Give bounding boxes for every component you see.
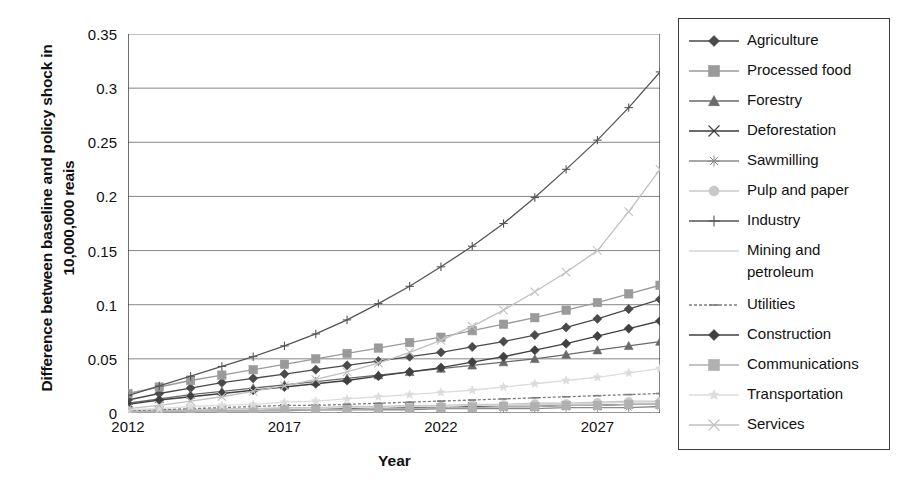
legend-swatch-square-icon <box>687 354 741 376</box>
data-point-marker <box>311 365 320 374</box>
legend-swatch-square-icon <box>687 60 741 82</box>
data-point-marker <box>531 314 539 322</box>
data-point-marker <box>656 337 660 345</box>
data-point-marker <box>709 390 719 400</box>
plot-svg <box>128 34 660 413</box>
data-point-marker <box>655 295 660 304</box>
data-point-marker <box>249 365 257 373</box>
legend-item-label: Communications <box>747 353 859 375</box>
data-point-marker <box>562 376 571 384</box>
x-tick-label: 2022 <box>424 418 457 435</box>
data-point-marker <box>655 316 660 325</box>
legend-swatch-diamond-icon <box>687 324 741 346</box>
data-point-marker <box>374 344 382 352</box>
legend-item-label: Services <box>747 413 805 435</box>
legend-item-label: Transportation <box>747 383 843 405</box>
legend-item[interactable]: Utilities <box>679 293 889 323</box>
data-point-marker <box>531 402 539 410</box>
data-point-marker <box>405 282 413 290</box>
data-point-marker <box>499 306 507 314</box>
data-point-marker <box>374 299 382 307</box>
data-point-marker <box>405 390 414 398</box>
legend-item[interactable]: Sawmilling <box>679 149 889 179</box>
data-point-marker <box>656 281 660 289</box>
data-point-marker <box>218 362 226 370</box>
series-agriculture <box>128 295 660 405</box>
data-point-marker <box>656 400 660 408</box>
legend-item[interactable]: Mining and petroleum <box>679 239 889 293</box>
legend-swatch-none-icon <box>687 240 741 262</box>
legend-swatch-diamond-icon <box>687 30 741 52</box>
data-point-marker <box>625 290 633 298</box>
data-point-marker <box>624 368 633 376</box>
x-tick-label: 2027 <box>581 418 614 435</box>
data-point-marker <box>468 386 477 394</box>
data-point-marker <box>530 346 539 355</box>
chart-figure: Difference between baseline and policy s… <box>0 0 903 487</box>
data-point-marker <box>624 304 633 313</box>
data-point-marker <box>499 402 507 410</box>
series-line <box>128 299 660 400</box>
y-tick-label: 0 <box>57 405 117 422</box>
x-tick-label: 2012 <box>111 418 144 435</box>
x-tick-label: 2017 <box>268 418 301 435</box>
data-point-marker <box>155 395 164 404</box>
data-point-marker <box>218 371 226 379</box>
legend-item[interactable]: Communications <box>679 353 889 383</box>
data-point-marker <box>437 403 445 411</box>
data-point-marker <box>593 314 602 323</box>
data-point-marker <box>499 337 508 346</box>
legend-item[interactable]: Pulp and paper <box>679 179 889 209</box>
data-point-marker <box>437 388 446 396</box>
data-point-marker <box>593 373 602 381</box>
data-point-marker <box>128 389 132 397</box>
y-tick-label: 0.2 <box>57 188 117 205</box>
series-line <box>128 342 660 404</box>
plot-area <box>128 34 660 413</box>
data-point-marker <box>343 406 351 413</box>
data-point-marker <box>499 382 508 390</box>
legend-item-label: Agriculture <box>747 29 819 51</box>
data-point-marker <box>562 306 570 314</box>
legend-item-label: Processed food <box>747 59 851 81</box>
legend-item[interactable]: Forestry <box>679 89 889 119</box>
legend-swatch-triangle-icon <box>687 90 741 112</box>
legend-item[interactable]: Deforestation <box>679 119 889 149</box>
data-point-marker <box>374 404 382 412</box>
legend-item[interactable]: Agriculture <box>679 29 889 59</box>
legend-item[interactable]: Industry <box>679 209 889 239</box>
data-point-marker <box>709 66 720 77</box>
data-point-marker <box>530 330 539 339</box>
data-point-marker <box>343 316 351 324</box>
data-point-marker <box>280 360 288 368</box>
legend-item-label: Industry <box>747 209 800 231</box>
data-point-marker <box>436 348 445 357</box>
data-point-marker <box>343 349 351 357</box>
legend-swatch-plus-icon <box>687 210 741 232</box>
y-tick-label: 0.1 <box>57 296 117 313</box>
legend-item-label: Construction <box>747 323 831 345</box>
data-point-marker <box>530 379 539 387</box>
legend-item-label: Pulp and paper <box>747 179 849 201</box>
series-line <box>128 169 660 408</box>
legend-swatch-dash-icon <box>687 294 741 316</box>
legend-item-label: Forestry <box>747 89 802 111</box>
legend-item[interactable]: Construction <box>679 323 889 353</box>
data-point-marker <box>709 360 720 371</box>
legend-item-label: Mining and petroleum <box>747 239 820 283</box>
y-tick-label: 0.3 <box>57 80 117 97</box>
legend-item[interactable]: Services <box>679 413 889 443</box>
data-point-marker <box>562 401 570 409</box>
legend-swatch-x-icon <box>687 414 741 436</box>
legend-item[interactable]: Processed food <box>679 59 889 89</box>
y-tick-label: 0.15 <box>57 242 117 259</box>
chart-legend: AgricultureProcessed foodForestryDefores… <box>678 18 890 450</box>
legend-item-label: Sawmilling <box>747 149 819 171</box>
data-point-marker <box>312 406 320 413</box>
x-axis-title: Year <box>128 452 661 470</box>
data-point-marker <box>437 263 445 271</box>
data-point-marker <box>312 355 320 363</box>
y-axis-tick-labels: 00.050.10.150.20.250.30.35 <box>55 0 117 487</box>
data-point-marker <box>499 352 508 361</box>
legend-item[interactable]: Transportation <box>679 383 889 413</box>
